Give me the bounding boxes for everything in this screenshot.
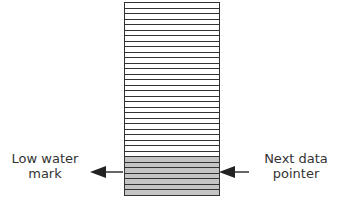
buffer-slot-filled bbox=[125, 190, 219, 195]
low-water-mark-label: Low water mark bbox=[2, 151, 88, 181]
next-data-pointer-label: Next data pointer bbox=[250, 151, 342, 181]
next-data-pointer-line2: pointer bbox=[250, 166, 342, 181]
next-data-pointer-line1: Next data bbox=[250, 151, 342, 166]
low-water-mark-arrow-icon bbox=[90, 164, 124, 180]
low-water-mark-line2: mark bbox=[2, 166, 88, 181]
low-water-mark-line1: Low water bbox=[2, 151, 88, 166]
next-data-pointer-arrow-icon bbox=[219, 164, 251, 180]
buffer-stack bbox=[124, 2, 220, 196]
